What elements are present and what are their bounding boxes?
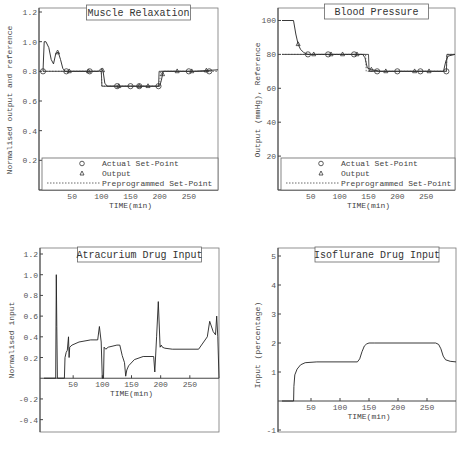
isoflurane-panel: 50100150200250TIME(min)-112345Input (per… [253,247,456,435]
chart-title: Muscle Relaxation [87,8,189,19]
x-axis-label: TIME(min) [109,201,152,210]
chart-title: Isoflurane Drug Input [314,250,440,261]
blood-pressure-panel: 50100150200250TIME(min)20406080100Output… [253,4,455,210]
y-tick-label: 4 [271,281,276,290]
y-tick-label: 0.4 [24,333,39,342]
y-tick-label: 0.2 [24,354,39,363]
y-tick-label: 1 [271,368,276,377]
legend-preprogrammed-set-point: Preprogrammed Set-Point [341,179,451,188]
legend-actual-set-point: Actual Set-Point [341,159,418,168]
y-tick-label: -0.2 [19,395,38,404]
y-axis-label: Input (percentage) [253,302,262,388]
output-marker [87,69,91,73]
y-tick-label: 0.2 [23,156,38,165]
y-tick-label: 3 [271,310,276,319]
x-tick-label: 50 [67,192,77,201]
plot-frame [40,248,219,432]
x-axis-label: TIME(min) [110,389,153,398]
y-tick-label: 0.6 [23,97,38,106]
x-tick-label: 200 [391,403,406,412]
y-tick-label: 1.0 [23,38,38,47]
chart-title: Atracurium Drug Input [76,250,202,261]
x-axis-label: TIME(min) [347,412,390,421]
y-tick-label: 100 [262,16,277,25]
output-line [43,42,218,86]
x-tick-label: 100 [95,380,110,389]
output-marker [341,52,345,56]
y-tick-label: 60 [266,84,276,93]
x-tick-label: 200 [390,192,405,201]
y-tick-label: -0.4 [19,416,38,425]
atracurium-panel: 50100150200250TIME(min)-0.4-0.20.20.40.6… [7,247,219,432]
output-marker [384,69,388,73]
x-tick-label: 100 [333,403,348,412]
x-tick-label: 50 [306,403,316,412]
y-tick-label: 40 [266,118,276,127]
y-tick-label: 80 [266,50,276,59]
y-axis-label: Output (mmHg), Reference [253,42,262,157]
y-tick-label: 1.0 [24,271,39,280]
x-tick-label: 200 [152,192,167,201]
x-tick-label: 50 [68,380,78,389]
x-tick-label: 250 [420,403,435,412]
y-tick-label: 1.2 [23,8,38,17]
x-tick-label: 150 [123,192,138,201]
y-tick-label: 0.4 [23,127,38,136]
x-tick-label: 200 [153,380,168,389]
output-marker [427,69,431,73]
muscle-relaxation-panel: 50100150200250TIME(min)0.20.40.60.81.01.… [5,5,218,210]
output-marker [413,69,417,73]
y-tick-label: 2 [271,339,276,348]
y-axis-label: Normalised input [7,302,16,379]
isoflurane-input-line [282,343,456,401]
x-tick-label: 100 [94,192,109,201]
x-tick-label: 100 [332,192,347,201]
x-tick-label: 150 [124,380,139,389]
output-marker [117,84,121,88]
output-marker [175,69,179,73]
y-tick-label: 5 [271,252,276,261]
figure-canvas: 50100150200250TIME(min)0.20.40.60.81.01.… [0,0,465,452]
output-marker [146,84,150,88]
legend-output: Output [102,169,131,178]
legend-actual-set-point: Actual Set-Point [102,159,179,168]
legend-output: Output [341,169,370,178]
x-tick-label: 250 [183,380,198,389]
y-tick-label: 0.6 [24,312,39,321]
output-marker [312,52,316,56]
chart-title: Blood Pressure [334,7,418,18]
x-tick-label: 250 [419,192,434,201]
y-tick-label: 20 [266,152,276,161]
y-tick-label: 1.2 [24,250,39,259]
y-tick-label: 0.8 [24,291,39,300]
x-tick-label: 250 [182,192,197,201]
y-tick-label: -1 [266,426,276,435]
x-axis-label: TIME(min) [347,201,390,210]
legend-preprogrammed-set-point: Preprogrammed Set-Point [102,179,212,188]
atracurium-input-line [44,275,219,379]
x-tick-label: 150 [362,403,377,412]
x-tick-label: 50 [306,192,316,201]
y-axis-label: Normalised output and reference [5,25,14,174]
x-tick-label: 150 [361,192,376,201]
y-tick-label: 0.8 [23,67,38,76]
